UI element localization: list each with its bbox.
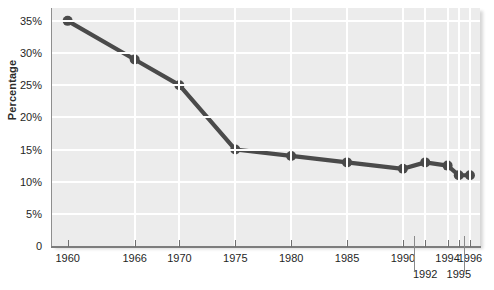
plot-area: 1960: 35%1966: 29%1970: 25%1975: 15%1980… — [52, 8, 480, 246]
x-axis-tick-label: 1996 — [458, 252, 482, 264]
gridline-vertical — [178, 8, 180, 246]
y-axis-tick-label: 30% — [2, 47, 42, 59]
y-axis-tick-label: 10% — [2, 176, 42, 188]
gridline-horizontal — [52, 181, 480, 183]
y-axis-tick-label: 5% — [2, 208, 42, 220]
x-axis-tick-label: 1994 — [435, 252, 459, 264]
series-polyline — [68, 21, 470, 175]
x-label-separator — [464, 236, 465, 272]
x-axis-tick-mark — [68, 240, 69, 247]
gridline-vertical — [458, 8, 460, 246]
plot-inner: 1960: 35%1966: 29%1970: 25%1975: 15%1980… — [52, 8, 480, 246]
x-axis-tick-label: 1966 — [122, 252, 146, 264]
gridline-horizontal — [52, 84, 480, 86]
y-axis-tick-label: 25% — [2, 79, 42, 91]
gridline-vertical — [402, 8, 404, 246]
x-axis-tick-label: 1992 — [413, 268, 437, 280]
gridline-vertical — [424, 8, 426, 246]
gridline-horizontal — [52, 213, 480, 215]
y-axis-tick-label: 35% — [2, 15, 42, 27]
x-axis-tick-mark — [403, 240, 404, 247]
data-series-line: 1960: 35%1966: 29%1970: 25%1975: 15%1980… — [52, 8, 480, 246]
gridline-vertical — [447, 8, 449, 246]
x-axis-tick-label: 1980 — [279, 252, 303, 264]
x-axis-tick-label: 1975 — [223, 252, 247, 264]
x-axis-tick-mark — [235, 240, 236, 247]
gridline-horizontal — [52, 20, 480, 22]
x-axis-tick-mark — [459, 240, 460, 247]
gridline-vertical — [290, 8, 292, 246]
x-axis-tick-mark — [470, 240, 471, 247]
x-axis-tick-mark — [347, 240, 348, 247]
y-axis-tick-label: 20% — [2, 111, 42, 123]
line-chart: Percentage 1960: 35%1966: 29%1970: 25%19… — [0, 0, 494, 290]
gridline-vertical — [134, 8, 136, 246]
x-axis-tick-label: 1990 — [391, 252, 415, 264]
x-axis-tick-label: 1995 — [447, 268, 471, 280]
x-axis-tick-mark — [425, 240, 426, 247]
gridline-vertical — [234, 8, 236, 246]
gridline-horizontal — [52, 149, 480, 151]
gridline-vertical — [469, 8, 471, 246]
gridline-vertical — [346, 8, 348, 246]
x-axis-tick-label: 1970 — [167, 252, 191, 264]
y-axis-tick-label: 0 — [2, 240, 42, 252]
x-axis-tick-mark — [448, 240, 449, 247]
gridline-horizontal — [52, 52, 480, 54]
x-label-separator — [414, 236, 415, 272]
x-axis-line — [51, 246, 481, 248]
x-axis-tick-label: 1960 — [55, 252, 79, 264]
y-axis-tick-label: 15% — [2, 144, 42, 156]
y-axis-line — [51, 8, 52, 247]
x-axis-tick-mark — [135, 240, 136, 247]
x-axis-tick-mark — [179, 240, 180, 247]
x-axis-tick-mark — [291, 240, 292, 247]
gridline-horizontal — [52, 116, 480, 118]
x-axis-tick-label: 1985 — [335, 252, 359, 264]
